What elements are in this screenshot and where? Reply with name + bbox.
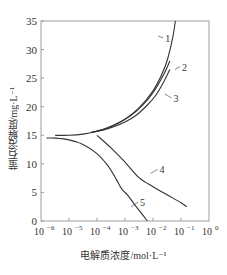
chart-svg: 05101520253035 10−610−510−410−310−210−11… <box>0 0 227 275</box>
curve-label-3: 3 <box>174 93 179 104</box>
curve-label-1: 1 <box>165 33 170 44</box>
curve-label-leader <box>131 202 138 207</box>
curve-1 <box>55 21 175 135</box>
curve-label-leader <box>158 36 163 38</box>
x-tick-exponent: −4 <box>103 224 111 232</box>
x-tick-exponent: 0 <box>215 224 219 232</box>
y-tick-label: 10 <box>26 158 38 170</box>
y-tick-label: 20 <box>26 101 38 113</box>
plot-frame <box>41 21 209 221</box>
y-tick-label: 30 <box>26 44 38 56</box>
curve-label-leader <box>151 169 158 173</box>
curve-5 <box>47 138 148 221</box>
y-axis-label: 萤石溶解度/mg·L⁻¹ <box>3 54 23 204</box>
x-tick-label: 10 <box>34 226 44 237</box>
x-tick-label: 10 <box>202 226 212 237</box>
x-tick-label: 10 <box>118 226 128 237</box>
x-tick-label: 10 <box>146 226 156 237</box>
y-tick-label: 15 <box>26 129 38 141</box>
curve-label-4: 4 <box>160 164 165 175</box>
y-axis-label-text: 萤石溶解度/mg·L⁻¹ <box>6 87 21 170</box>
curves <box>47 21 187 221</box>
y-tick-label: 25 <box>26 72 38 84</box>
x-tick-label: 10 <box>62 226 72 237</box>
curve-label-5: 5 <box>140 197 145 208</box>
x-tick-label: 10 <box>174 226 184 237</box>
x-tick-exponent: −2 <box>159 224 167 232</box>
curve-label-leader <box>175 67 180 70</box>
y-tick-label: 5 <box>32 186 38 198</box>
curve-2 <box>91 61 169 132</box>
curve-3 <box>91 70 169 133</box>
curve-4 <box>97 135 187 206</box>
x-tick-exponent: −3 <box>131 224 139 232</box>
x-tick-label: 10 <box>90 226 100 237</box>
y-tick-label: 35 <box>26 15 38 27</box>
curve-label-leader <box>165 94 172 98</box>
x-tick-exponent: −5 <box>75 224 83 232</box>
curve-label-2: 2 <box>182 62 187 73</box>
x-axis-label: 电解质浓度/mol·L⁻¹ <box>0 247 227 262</box>
x-tick-exponent: −6 <box>47 224 55 232</box>
x-tick-exponent: −1 <box>187 224 195 232</box>
curve-labels: 12345 <box>131 33 187 208</box>
